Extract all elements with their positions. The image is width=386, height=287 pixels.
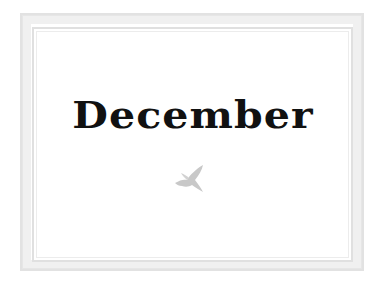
month-title: December [0,92,386,137]
card-frame-inner-line [36,31,349,258]
bird-icon [170,163,210,197]
